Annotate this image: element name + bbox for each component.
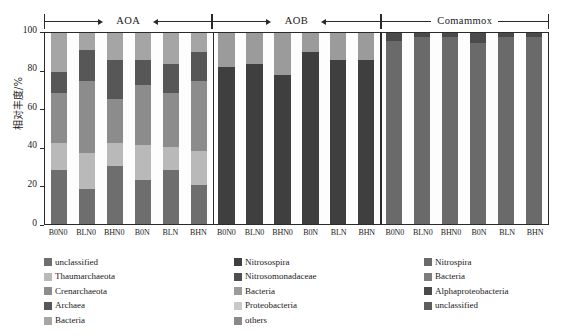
bar-segment bbox=[386, 33, 402, 41]
legend-item[interactable]: Archaea bbox=[44, 300, 234, 312]
x-axis-tick-label: BHN0 bbox=[100, 226, 128, 240]
stacked-bar[interactable] bbox=[274, 33, 290, 224]
legend-swatch-icon bbox=[44, 258, 52, 266]
stacked-bar[interactable] bbox=[526, 33, 542, 224]
bar-segment bbox=[163, 147, 179, 170]
plot-area bbox=[44, 32, 549, 225]
group-divider bbox=[380, 33, 381, 224]
stacked-bar[interactable] bbox=[386, 33, 402, 224]
stacked-bar[interactable] bbox=[191, 33, 207, 224]
y-axis-tick-label: 40 bbox=[28, 141, 38, 151]
stacked-bar[interactable] bbox=[135, 33, 151, 224]
stacked-bar[interactable] bbox=[218, 33, 234, 224]
legend-item[interactable]: Nitrosospira bbox=[234, 256, 424, 268]
x-axis-tick-label: BLN bbox=[325, 226, 353, 240]
bar-segment bbox=[51, 93, 67, 143]
x-axis-tick-label: B0N bbox=[465, 226, 493, 240]
legend-label: Nitrosospira bbox=[245, 258, 290, 267]
bar-segment bbox=[51, 33, 67, 72]
stacked-bar[interactable] bbox=[330, 33, 346, 224]
group-header-band: AOAAOBComammox bbox=[44, 10, 549, 32]
stacked-bar[interactable] bbox=[302, 33, 318, 224]
bar-slot bbox=[73, 33, 101, 224]
legend-item[interactable]: Bacteria bbox=[234, 285, 424, 297]
bar-slot bbox=[324, 33, 352, 224]
stacked-bar[interactable] bbox=[107, 33, 123, 224]
group-rule bbox=[44, 21, 100, 22]
legend-label: Proteobacteria bbox=[245, 301, 297, 310]
bar-segment bbox=[51, 143, 67, 170]
arrow-left-icon bbox=[153, 19, 158, 25]
x-axis-tick-label: B0N bbox=[128, 226, 156, 240]
legend-label: Thaumarchaeota bbox=[55, 272, 115, 281]
legend-swatch-icon bbox=[424, 302, 432, 310]
group-label-text: Comammox bbox=[431, 16, 498, 27]
bar-segment bbox=[498, 37, 514, 224]
bar-slot bbox=[492, 33, 520, 224]
stacked-bar[interactable] bbox=[498, 33, 514, 224]
group-rule bbox=[381, 21, 437, 22]
stacked-bar[interactable] bbox=[51, 33, 67, 224]
legend-item[interactable]: Crenarchaeota bbox=[44, 285, 234, 297]
y-axis: 相对丰度/% 020406080100 bbox=[0, 32, 44, 225]
bar-slot bbox=[464, 33, 492, 224]
x-axis-labels: B0N0BLN0BHN0B0NBLNBHNB0N0BLN0BHN0B0NBLNB… bbox=[44, 226, 549, 240]
bar-segment bbox=[274, 75, 290, 224]
legend-item[interactable]: unclassified bbox=[424, 300, 508, 312]
bar-segment bbox=[135, 85, 151, 145]
legend-item[interactable]: Thaumarchaeota bbox=[44, 271, 234, 283]
bar-segment bbox=[135, 180, 151, 224]
legend-item[interactable]: Proteobacteria bbox=[234, 300, 424, 312]
legend-item[interactable]: unclassified bbox=[44, 256, 234, 268]
group-label-text: AOB bbox=[279, 16, 314, 27]
x-axis-tick-label: B0N bbox=[297, 226, 325, 240]
legend-label: Crenarchaeota bbox=[55, 287, 107, 296]
bar-slot bbox=[269, 33, 297, 224]
legend-label: Alphaproteobacteria bbox=[435, 287, 508, 296]
y-axis-tick-label: 100 bbox=[23, 26, 37, 36]
bar-segment bbox=[163, 93, 179, 147]
bar-slot bbox=[296, 33, 324, 224]
stacked-bar[interactable] bbox=[79, 33, 95, 224]
group-bracket-end bbox=[548, 14, 549, 29]
bar-slot bbox=[436, 33, 464, 224]
bar-segment bbox=[246, 64, 262, 224]
stacked-bar[interactable] bbox=[163, 33, 179, 224]
stacked-bar[interactable] bbox=[442, 33, 458, 224]
stacked-bar[interactable] bbox=[358, 33, 374, 224]
bar-segment bbox=[246, 33, 262, 64]
y-axis-tick-label: 60 bbox=[28, 103, 38, 113]
bar-segment bbox=[191, 151, 207, 186]
arrow-right-icon bbox=[266, 19, 271, 25]
group-bracket-end bbox=[44, 14, 45, 29]
bar-segment bbox=[358, 60, 374, 224]
legend-swatch-icon bbox=[44, 302, 52, 310]
legend-item[interactable]: Alphaproteobacteria bbox=[424, 285, 508, 297]
legend-label: Nitrospira bbox=[435, 258, 472, 267]
legend-swatch-icon bbox=[234, 317, 242, 325]
legend-item[interactable]: others bbox=[234, 314, 424, 326]
group-label-aoa: AOA bbox=[44, 10, 212, 32]
x-axis-tick-label: BLN0 bbox=[240, 226, 268, 240]
legend-item[interactable]: Bacteria bbox=[424, 271, 508, 283]
legend-swatch-icon bbox=[424, 287, 432, 295]
group-bracket-end bbox=[212, 14, 213, 29]
legend-item[interactable]: Nitrosomonadaceae bbox=[234, 271, 424, 283]
legend-item[interactable]: Nitrospira bbox=[424, 256, 508, 268]
group-label-text: AOA bbox=[110, 16, 146, 27]
legend-swatch-icon bbox=[424, 258, 432, 266]
group-rule bbox=[156, 21, 212, 22]
bar-segment bbox=[274, 33, 290, 75]
legend-swatch-icon bbox=[234, 273, 242, 281]
x-axis-tick-label: BHN0 bbox=[269, 226, 297, 240]
group-bracket-end bbox=[381, 14, 382, 29]
legend-item[interactable]: Bacteria bbox=[44, 314, 234, 326]
stacked-bar[interactable] bbox=[470, 33, 486, 224]
stacked-bar[interactable] bbox=[414, 33, 430, 224]
legend-swatch-icon bbox=[44, 317, 52, 325]
bar-slot bbox=[157, 33, 185, 224]
bar-segment bbox=[191, 52, 207, 81]
legend-label: Bacteria bbox=[245, 287, 275, 296]
bar-segment bbox=[51, 170, 67, 224]
stacked-bar[interactable] bbox=[246, 33, 262, 224]
